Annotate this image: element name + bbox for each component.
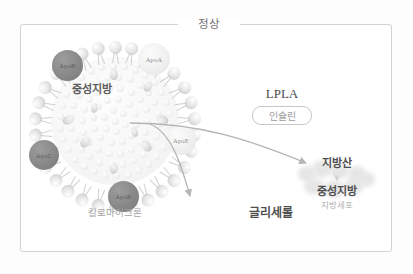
diagram-canvas: 정상 ApoB ApoA ApoE ApoC ApoB 중성지방 킬로마이크론 … bbox=[0, 0, 413, 274]
fatty-acid-label: 지방산 bbox=[300, 154, 374, 170]
insulin-badge: 인슐린 bbox=[252, 106, 312, 125]
lpla-label: LPLA bbox=[246, 86, 318, 102]
arrow-to-glycerol bbox=[150, 124, 190, 196]
stored-triglyceride-label: 중성지방 bbox=[296, 182, 378, 198]
reaction-arrows bbox=[0, 0, 413, 274]
glycerol-label: 글리세롤 bbox=[226, 203, 316, 221]
arrow-to-fatty-acid bbox=[130, 123, 306, 163]
